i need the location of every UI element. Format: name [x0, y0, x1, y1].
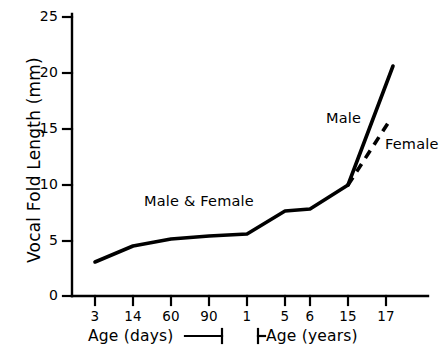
x-tick-label-6-years: 6 [290, 308, 330, 324]
y-tick-label-5: 5 [16, 232, 58, 248]
x-tick-label-3: 3 [75, 308, 115, 324]
x-axis-ticks [95, 296, 386, 305]
vocal-fold-length-line-chart [0, 0, 440, 355]
x-tick-label-15-years: 15 [328, 308, 368, 324]
series-annotation-male: Male [326, 110, 361, 126]
x-tick-label-60: 60 [151, 308, 191, 324]
series-annotation-female: Female [385, 136, 439, 152]
series-annotation-male-female: Male & Female [144, 193, 254, 209]
age-years-range-bracket [258, 329, 265, 343]
x-tick-label-14: 14 [113, 308, 153, 324]
x-axis-group-label-days: Age (days) [88, 327, 174, 345]
y-tick-label-0: 0 [16, 287, 58, 303]
x-tick-label-17-years: 17 [366, 308, 406, 324]
axis-lines [72, 14, 428, 296]
age-days-range-bracket [185, 329, 222, 343]
chart-figure: Vocal Fold Length (mm) 25 20 15 10 5 0 3… [0, 0, 440, 355]
y-tick-label-15: 15 [16, 120, 58, 136]
x-tick-label-1-year: 1 [227, 308, 267, 324]
y-tick-label-10: 10 [16, 176, 58, 192]
y-tick-label-25: 25 [16, 8, 58, 24]
y-tick-label-20: 20 [16, 64, 58, 80]
x-axis-group-label-years: Age (years) [266, 327, 358, 345]
x-tick-label-90: 90 [189, 308, 229, 324]
y-axis-ticks [63, 17, 72, 296]
